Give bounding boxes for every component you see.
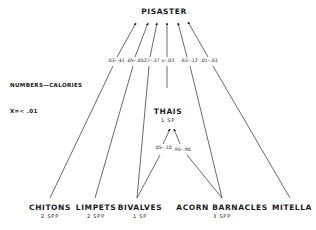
edge-label-bivalves-pisaster: .27–.37 <box>142 58 160 64</box>
edge-label-barnacles-thais: .95–.90 <box>173 147 191 153</box>
edge-label-limpets-pisaster: .05–.05 <box>126 58 144 64</box>
edge-bivalves-thais-arrow <box>163 129 170 144</box>
node-limpets-spp: 2 SPP <box>76 212 116 220</box>
edge-label-thais-pisaster: x–.02 <box>162 58 175 64</box>
legend-title: NUMBERS—CALORIES <box>10 82 82 88</box>
node-limpets-name: LIMPETS <box>76 203 116 212</box>
node-chitons-name: CHITONS <box>29 203 71 212</box>
node-mitella-name: MITELLA <box>272 203 312 212</box>
node-bivalves: BIVALVES 1 SP <box>118 203 162 220</box>
node-pisaster: PISASTER <box>141 7 187 16</box>
node-limpets: LIMPETS 2 SPP <box>76 203 116 220</box>
node-pisaster-name: PISASTER <box>141 7 187 16</box>
node-bivalves-name: BIVALVES <box>118 203 162 212</box>
node-thais: THAIS 1 SP <box>154 107 182 124</box>
edge-barnacles-pisaster-arrow <box>178 23 187 57</box>
node-acorn-barnacles: ACORN BARNACLES 3 SPP <box>176 203 268 220</box>
node-thais-spp: 1 SP <box>154 116 182 124</box>
edge-limpets-pisaster <box>95 66 133 198</box>
node-chitons: CHITONS 2 SPP <box>29 203 71 220</box>
edge-chitons-pisaster-arrow <box>117 23 136 57</box>
edge-barnacles-thais-arrow <box>174 129 180 144</box>
node-thais-name: THAIS <box>154 107 182 116</box>
node-chitons-spp: 2 SPP <box>29 212 71 220</box>
edge-limpets-pisaster-arrow <box>135 23 148 57</box>
edge-bivalves-pisaster-arrow <box>150 23 157 57</box>
node-bivalves-spp: 1 SP <box>118 212 162 220</box>
edge-label-bivalves-thais: .05–.10 <box>154 145 172 151</box>
node-acorn-barnacles-spp: 3 SPP <box>176 212 268 220</box>
edge-mitella-pisaster-arrow <box>188 22 208 57</box>
edge-label-chitons-pisaster: .03–.41 <box>107 58 125 64</box>
node-mitella: MITELLA <box>272 203 312 212</box>
node-acorn-barnacles-name: ACORN BARNACLES <box>176 203 268 212</box>
edge-label-mitella-pisaster: .01–.03 <box>200 58 218 64</box>
edge-mitella-pisaster <box>213 66 290 198</box>
food-web-diagram: NUMBERS—CALORIES X=< .01 PISASTER THAIS … <box>0 0 316 230</box>
legend-note: X=< .01 <box>10 108 38 114</box>
edge-label-barnacles-pisaster: .63–.12 <box>180 58 198 64</box>
